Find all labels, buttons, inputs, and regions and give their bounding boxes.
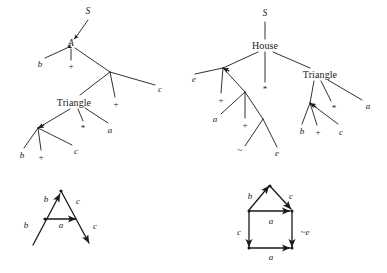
node-label-tr-a2: a [366, 102, 371, 111]
node-label-tl-star: * [81, 124, 86, 133]
node-label-bl-c-top: c [76, 197, 80, 206]
node-label-tr-plus1: + [218, 96, 223, 105]
node-label-tl-c1: c [158, 85, 162, 94]
node-label-tr-a1: a [213, 115, 218, 124]
node-label-br-a-bot: a [269, 253, 274, 262]
node-label-br-c-left: c [237, 228, 241, 237]
node-label-tr-triangle: Triangle [303, 70, 337, 80]
top-right-tree-edges [195, 22, 362, 147]
node-label-tr-e1: e [192, 75, 196, 84]
node-label-tl-plus3: + [38, 153, 43, 162]
node-label-bl-b-top: b [44, 195, 49, 204]
node-label-tr-star1: * [263, 85, 268, 94]
node-label-tr-b1: b [300, 127, 305, 136]
node-label-bl-b-left: b [24, 221, 29, 230]
node-label-tr-c1: c [339, 128, 343, 137]
node-label-tr-tilde: ~ [238, 146, 243, 155]
node-label-tr-plus3: + [315, 128, 320, 137]
node-label-tr-S: S [263, 9, 268, 19]
figure-canvas: SAb+cTriangle+*ab+cSHousee*Triangle+aa*+… [0, 0, 387, 273]
node-label-br-c-roof: c [289, 192, 293, 201]
node-label-bl-a-mid: a [59, 221, 64, 230]
node-label-br-a-mid: a [269, 217, 274, 226]
bottom-left-graph-edges [33, 191, 89, 245]
node-label-tr-house: House [252, 41, 278, 51]
node-label-tl-triangle: Triangle [57, 98, 91, 108]
node-label-tr-star2: * [332, 104, 337, 113]
node-label-tr-e2: e [275, 149, 279, 158]
node-label-tl-A: A [68, 39, 74, 49]
node-label-br-notE: ~e [300, 228, 309, 237]
node-label-tl-plus1: + [68, 62, 73, 71]
top-left-tree-edges [24, 20, 155, 150]
node-label-tl-S: S [86, 7, 91, 17]
figure-vector-layer [0, 0, 387, 273]
node-label-tl-a1: a [108, 126, 113, 135]
node-label-tl-c2: c [74, 147, 78, 156]
node-label-br-b-roof: b [248, 192, 253, 201]
node-label-tl-b2: b [20, 151, 25, 160]
node-label-tr-plus2: + [242, 121, 247, 130]
node-label-tl-plus2: + [113, 100, 118, 109]
node-label-bl-c-right: c [93, 222, 97, 231]
top-left-tree-arrowheads [38, 125, 44, 128]
node-label-tl-b1: b [38, 60, 43, 69]
